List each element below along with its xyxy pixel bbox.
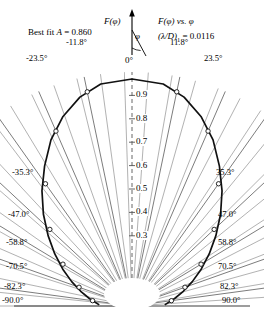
data-point-marker [90, 298, 94, 302]
data-point-marker [43, 182, 47, 186]
data-point-marker [216, 182, 220, 186]
radial-tick-label: 0.6 [135, 161, 148, 170]
data-point-marker [212, 227, 216, 231]
major-gridline [132, 91, 225, 306]
angle-tick-label: 23.5° [204, 54, 222, 63]
angle-tick-label: -47.0° [8, 210, 29, 219]
angle-tick-label: 35.3° [216, 168, 234, 177]
radial-tick-label: 0.5 [135, 184, 148, 193]
radial-tick-label: 0.7 [135, 137, 148, 146]
data-point-marker [54, 129, 58, 133]
data-point-marker [85, 90, 89, 94]
angle-tick-label: -35.3° [12, 168, 33, 177]
angle-tick-label: -58.8° [6, 238, 27, 247]
angle-tick-label: 90.0° [222, 296, 240, 305]
radial-tick-label: 0.8 [135, 114, 148, 123]
phi-symbol-label: φ [135, 32, 140, 41]
minor-gridline [132, 141, 264, 306]
radial-tick-label: 0.4 [135, 207, 148, 216]
data-point-marker [183, 285, 187, 289]
radial-tick-label: 0.3 [135, 231, 148, 240]
data-point-marker [77, 285, 81, 289]
minor-gridline [11, 106, 132, 306]
angle-tick-label: -23.5° [26, 54, 47, 63]
angle-tick-label: 70.5° [218, 262, 236, 271]
best-fit-annotation: Best fit A = 0.860 [28, 28, 92, 37]
axis-symbol-label: F(φ) [104, 17, 120, 26]
data-point-marker [206, 129, 210, 133]
data-point-marker [175, 90, 179, 94]
angle-tick-label: 47.0° [218, 210, 236, 219]
data-point-marker [48, 227, 52, 231]
minor-gridline [32, 95, 132, 306]
data-point-marker [169, 298, 173, 302]
angle-tick-label: -11.8° [66, 38, 87, 47]
radial-tick-label: 0.9 [135, 90, 148, 99]
polar-plot-figure [0, 0, 264, 320]
chart-title: F(φ) vs. φ [158, 17, 194, 26]
angle-tick-label: 58.8° [218, 238, 236, 247]
data-point-marker [199, 262, 203, 266]
major-gridline [39, 91, 132, 306]
minor-gridline [132, 98, 240, 306]
angle-tick-label: -70.5° [6, 262, 27, 271]
angle-tick-label: -82.3° [4, 282, 25, 291]
minor-gridline [100, 74, 132, 306]
angle-tick-label: 11.8° [170, 38, 188, 47]
data-point-marker [61, 262, 65, 266]
angle-tick-label: -90.0° [2, 296, 23, 305]
best-fit-text: Best fit [28, 27, 54, 37]
best-fit-value: = 0.860 [62, 27, 92, 37]
origin-mask [104, 278, 160, 310]
angle-label-zero: 0° [125, 56, 133, 65]
minor-gridline [77, 79, 132, 306]
angle-tick-label: 82.3° [220, 282, 238, 291]
